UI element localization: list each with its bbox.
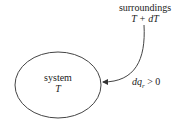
- surroundings-label: surroundings T + dT: [114, 2, 176, 24]
- system-temperature: T: [30, 83, 86, 94]
- surroundings-temperature: T + dT: [114, 13, 176, 24]
- system-label: system T: [30, 72, 86, 94]
- system-name: system: [30, 72, 86, 83]
- heat-symbol: dq: [132, 76, 142, 87]
- heat-flow-arrow: [103, 25, 144, 82]
- surroundings-name: surroundings: [114, 2, 176, 13]
- heat-relation: > 0: [145, 76, 161, 87]
- heat-flow-label: dqr > 0: [132, 76, 160, 92]
